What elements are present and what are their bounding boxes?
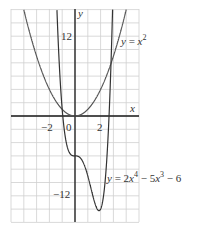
legend-quartic-label: y = 2x4 − 5x3 − 6: [106, 170, 182, 184]
legend-parabola-label: y = x2: [120, 33, 147, 47]
tick-label-neg2: −2: [41, 121, 53, 133]
tick-label-neg12: −12: [53, 188, 70, 200]
tick-label-12: 12: [61, 30, 72, 42]
tick-label-2: 2: [97, 121, 103, 133]
tick-label-0: 0: [66, 121, 72, 133]
x-axis-label: x: [129, 102, 135, 114]
y-axis-label: y: [77, 7, 83, 19]
chart: y x −2 0 2 12 −12 y = x2 y = 2x4 − 5x3 −…: [0, 0, 198, 232]
